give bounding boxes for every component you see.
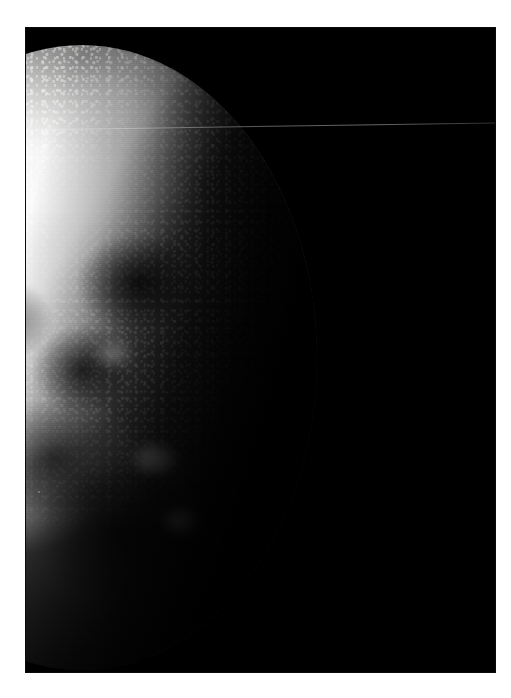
dust-speck	[38, 491, 40, 493]
terminator-shadow	[25, 45, 317, 670]
photographic-plate	[25, 27, 496, 673]
photograph-page	[0, 0, 511, 698]
earth-disc	[25, 27, 496, 673]
